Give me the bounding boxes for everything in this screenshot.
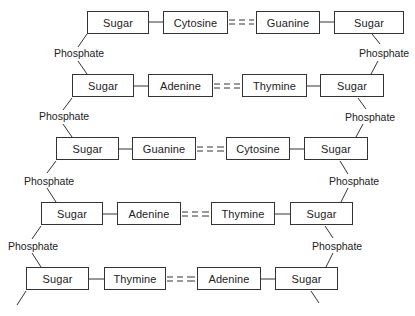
base-label: Guanine — [143, 143, 185, 155]
sugar-box: Sugar — [56, 137, 119, 160]
phosphate-label: Phosphate — [358, 47, 410, 59]
sugar-box: Sugar — [72, 74, 134, 97]
sugar-box: Sugar — [26, 267, 89, 290]
phosphate-label: Phosphate — [23, 175, 75, 187]
base-label: Thymine — [222, 208, 265, 220]
sugar-box: Sugar — [87, 11, 149, 34]
base-box: Cytosine — [163, 11, 228, 34]
base-box: Adenine — [197, 267, 261, 290]
sugar-box: Sugar — [290, 202, 353, 225]
base-box: Adenine — [148, 74, 213, 97]
sugar-label: Sugar — [354, 17, 384, 29]
base-box: Thymine — [104, 267, 166, 290]
sugar-box: Sugar — [320, 74, 384, 97]
base-label: Thymine — [114, 273, 157, 285]
phosphate-label: Phosphate — [344, 111, 396, 123]
base-box: Cytosine — [226, 137, 290, 160]
phosphate-label: Phosphate — [53, 47, 105, 59]
sugar-box: Sugar — [304, 137, 368, 160]
base-box: Guanine — [256, 11, 320, 34]
sugar-label: Sugar — [292, 273, 322, 285]
phosphate-label: Phosphate — [328, 175, 380, 187]
sugar-label: Sugar — [57, 208, 87, 220]
base-label: Cytosine — [174, 17, 218, 29]
dna-diagram: Sugar Cytosine Guanine Sugar Sugar Adeni… — [0, 0, 415, 316]
base-box: Guanine — [132, 137, 196, 160]
phosphate-label: Phosphate — [7, 240, 59, 252]
base-label: Adenine — [208, 273, 249, 285]
sugar-label: Sugar — [43, 273, 73, 285]
base-label: Cytosine — [236, 143, 280, 155]
base-box: Adenine — [117, 202, 181, 225]
base-label: Adenine — [128, 208, 169, 220]
sugar-box: Sugar — [41, 202, 103, 225]
base-box: Thymine — [211, 202, 275, 225]
base-label: Guanine — [267, 17, 309, 29]
sugar-label: Sugar — [307, 208, 337, 220]
sugar-label: Sugar — [337, 80, 367, 92]
sugar-label: Sugar — [321, 143, 351, 155]
sugar-label: Sugar — [73, 143, 103, 155]
sugar-box: Sugar — [334, 11, 404, 34]
sugar-box: Sugar — [275, 267, 338, 290]
phosphate-label: Phosphate — [38, 110, 90, 122]
phosphate-label: Phosphate — [311, 240, 363, 252]
base-label: Thymine — [253, 80, 296, 92]
sugar-label: Sugar — [88, 80, 118, 92]
sugar-label: Sugar — [103, 17, 133, 29]
base-box: Thymine — [242, 74, 307, 97]
base-label: Adenine — [160, 80, 201, 92]
